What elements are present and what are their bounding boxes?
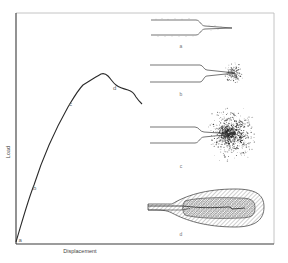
damage-zone-c [208,108,255,162]
panel-d-label: d [180,231,183,237]
crack-panel-c: c [150,108,255,169]
curve-point-d-label: d [113,85,116,91]
damage-zone-b [225,62,243,83]
panel-a-label: a [180,43,183,49]
load-displacement-curve [16,74,142,242]
panel-b-label: b [180,91,183,97]
curve-point-c-label: c [69,101,72,107]
crack-panel-b: b [150,62,243,97]
y-axis-label: Load [5,146,11,158]
curve-point-a-label: a [19,237,23,243]
crack-panel-d: d [148,189,264,237]
panel-c-label: c [180,163,183,169]
load-displacement-figure: Load Displacement a b c d a b c [0,0,288,263]
x-axis-label: Displacement [63,248,97,254]
crack-panel-a: a [151,18,232,49]
curve-point-b-label: b [33,185,37,191]
